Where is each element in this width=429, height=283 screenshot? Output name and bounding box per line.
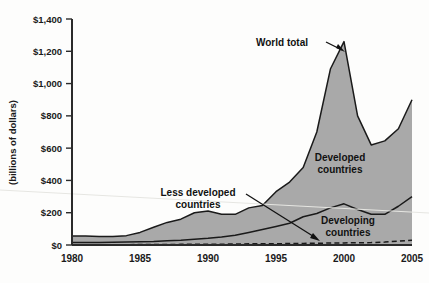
annotation-developed-line2: countries xyxy=(317,164,362,175)
x-axis-tick-label: 1980 xyxy=(61,253,84,264)
y-axis-tick-label: $400 xyxy=(41,175,62,186)
chart-container: $0$200$400$600$800$1,000$1,200$1,400 198… xyxy=(0,0,429,283)
y-axis-tick-label: $1,400 xyxy=(33,14,62,25)
annotation-developing-line1: Developing xyxy=(321,215,375,226)
y-axis-title: (billions of dollars) xyxy=(7,100,18,185)
y-axis-tick-label: $200 xyxy=(41,207,62,218)
annotation-less-developed-line1: Less developed xyxy=(160,187,235,198)
annotation-developing-line2: countries xyxy=(325,227,370,238)
area-chart: $0$200$400$600$800$1,000$1,200$1,400 198… xyxy=(0,0,429,283)
annotation-less-developed-line2: countries xyxy=(175,199,220,210)
x-axis-tick-label: 1990 xyxy=(197,253,220,264)
x-axis-tick-label: 1985 xyxy=(129,253,152,264)
y-axis-tick-label: $0 xyxy=(51,240,62,251)
y-axis-tick-label: $1,200 xyxy=(33,46,62,57)
y-axis-tick-label: $1,000 xyxy=(33,78,62,89)
annotation-developed-line1: Developed xyxy=(315,152,366,163)
x-axis-tick-label: 2000 xyxy=(333,253,356,264)
annotation-world-total: World total xyxy=(256,37,308,48)
y-axis-tick-label: $600 xyxy=(41,143,62,154)
x-axis-tick-label: 2005 xyxy=(401,253,424,264)
x-axis-tick-label: 1995 xyxy=(265,253,288,264)
y-axis-tick-label: $800 xyxy=(41,110,62,121)
